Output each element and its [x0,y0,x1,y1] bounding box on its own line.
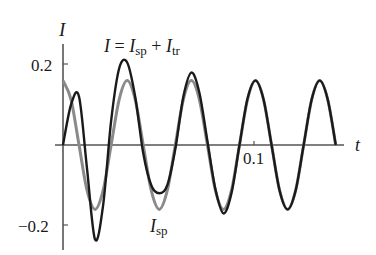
ann-total-plus: + [147,36,166,56]
ann-total-eq: = [110,36,129,56]
ann-total-sub1: sp [135,43,147,58]
ann-sp-sub: sp [156,223,168,238]
ann-total-sub2: tr [172,43,181,58]
chart: 0.2 −0.2 0.1 I t I = Isp + Itr Isp [0,0,376,255]
series-i-line [63,60,336,241]
ytick-pos-label: 0.2 [31,56,52,75]
x-axis-label: t [355,135,361,155]
annotation-total-current: I = Isp + Itr [103,36,180,58]
ytick-neg-label: −0.2 [18,217,49,236]
y-axis-label: I [58,19,67,40]
xtick-label: 0.1 [243,149,264,168]
annotation-isp: Isp [149,216,168,238]
